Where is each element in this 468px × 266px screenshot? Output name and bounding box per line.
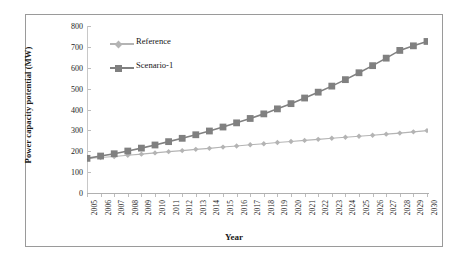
- diamond-marker-icon: [261, 141, 266, 146]
- y-axis-tick-label: 300: [43, 126, 83, 135]
- square-marker-icon: [165, 138, 172, 145]
- diamond-marker-icon: [302, 138, 307, 143]
- x-axis-tick-label: 2021: [308, 200, 317, 215]
- x-axis-tick-label: 2023: [335, 200, 344, 215]
- square-marker-icon: [315, 89, 322, 96]
- square-marker-icon: [192, 131, 199, 138]
- square-marker-icon: [152, 142, 159, 149]
- diamond-marker-icon: [356, 134, 361, 139]
- y-axis-title: Power capacity potential (MW): [23, 15, 33, 195]
- square-marker-icon: [356, 69, 363, 76]
- x-axis-tick-label: 2013: [199, 200, 208, 215]
- x-axis-tick-label: 2017: [253, 200, 262, 215]
- diamond-marker-icon: [384, 131, 389, 136]
- x-axis-tick-mark: [277, 194, 278, 197]
- x-axis-tick-label: 2016: [240, 200, 249, 215]
- square-marker-icon: [206, 128, 213, 135]
- x-axis-tick-mark: [87, 194, 88, 197]
- diamond-marker-icon: [180, 148, 185, 153]
- diamond-marker-icon: [411, 129, 416, 134]
- square-marker-icon: [247, 115, 254, 122]
- x-axis-tick-mark: [291, 194, 292, 197]
- x-axis-tick-mark: [155, 194, 156, 197]
- x-axis-tick-label: 2010: [158, 200, 167, 215]
- diamond-marker-icon: [424, 128, 428, 133]
- x-axis-tick-mark: [359, 194, 360, 197]
- x-axis-tick-mark: [141, 194, 142, 197]
- x-axis-tick-label: 2015: [226, 200, 235, 215]
- series-reference: [87, 128, 428, 161]
- diamond-marker-icon: [234, 143, 239, 148]
- x-axis-tick-mark: [114, 194, 115, 197]
- x-axis-tick-label: 2030: [430, 200, 439, 215]
- square-marker-icon: [424, 38, 428, 45]
- x-axis-tick-label: 2005: [90, 200, 99, 215]
- x-axis-tick-mark: [182, 194, 183, 197]
- x-axis-tick-mark: [400, 194, 401, 197]
- x-axis-tick-label: 2014: [212, 200, 221, 215]
- chart-legend: Reference Scenario-1: [110, 36, 230, 84]
- x-axis-tick-mark: [237, 194, 238, 197]
- x-axis-tick-label: 2011: [172, 200, 181, 215]
- legend-item-scenario1: Scenario-1: [110, 60, 230, 84]
- diamond-marker-icon: [220, 144, 225, 149]
- x-axis-tick-label: 2027: [389, 200, 398, 215]
- square-marker-icon: [301, 95, 308, 102]
- x-axis-tick-mark: [209, 194, 210, 197]
- square-marker-icon: [274, 105, 281, 112]
- x-axis-tick-mark: [305, 194, 306, 197]
- x-axis-tick-mark: [128, 194, 129, 197]
- x-axis-tick-mark: [318, 194, 319, 197]
- legend-swatch-reference: [110, 43, 134, 45]
- diamond-marker-icon: [288, 139, 293, 144]
- diamond-marker-icon: [343, 135, 348, 140]
- square-marker-icon: [369, 62, 376, 69]
- x-axis-tick-label: 2018: [267, 200, 276, 215]
- square-marker-icon: [233, 119, 240, 126]
- square-marker-icon: [288, 100, 295, 107]
- diamond-marker-icon: [139, 151, 144, 156]
- square-marker-icon: [220, 124, 227, 131]
- y-axis-tick-label: 700: [43, 42, 83, 51]
- y-axis-tick-label: 200: [43, 147, 83, 156]
- square-marker-icon: [97, 153, 104, 160]
- x-axis-tick-mark: [332, 194, 333, 197]
- x-axis-tick-label: 2006: [104, 200, 113, 215]
- square-marker-icon: [328, 83, 335, 90]
- diamond-marker-icon: [152, 150, 157, 155]
- square-marker-icon: [179, 135, 186, 142]
- x-axis-tick-label: 2026: [376, 200, 385, 215]
- x-axis-tick-label: 2025: [362, 200, 371, 215]
- diamond-marker-icon: [248, 142, 253, 147]
- x-axis-tick-mark: [196, 194, 197, 197]
- x-axis-tick-mark: [169, 194, 170, 197]
- diamond-marker-icon: [166, 149, 171, 154]
- x-axis-tick-mark: [373, 194, 374, 197]
- x-axis-tick-marks: [87, 194, 429, 198]
- diamond-marker-icon: [193, 147, 198, 152]
- x-axis-tick-mark: [101, 194, 102, 197]
- legend-label-reference: Reference: [136, 36, 171, 46]
- x-axis-tick-mark: [223, 194, 224, 197]
- square-marker-icon: [138, 145, 145, 152]
- x-axis-tick-mark: [413, 194, 414, 197]
- diamond-marker-icon: [329, 136, 334, 141]
- square-marker-icon: [342, 76, 349, 83]
- x-axis-tick-mark: [427, 194, 428, 197]
- x-axis-title: Year: [25, 232, 443, 242]
- legend-swatch-scenario1: [110, 67, 134, 69]
- y-axis-tick-label: 0: [43, 189, 83, 198]
- x-axis-tick-label: 2009: [144, 200, 153, 215]
- y-axis-tick-label: 400: [43, 105, 83, 114]
- x-axis-tick-mark: [250, 194, 251, 197]
- x-axis-tick-label: 2028: [403, 200, 412, 215]
- diamond-marker-icon: [275, 140, 280, 145]
- x-axis-tick-label: 2019: [280, 200, 289, 215]
- x-axis-tick-mark: [386, 194, 387, 197]
- diamond-marker-icon: [370, 132, 375, 137]
- diamond-marker-icon: [114, 40, 123, 49]
- square-marker-icon: [124, 148, 131, 155]
- square-marker-icon: [410, 42, 417, 49]
- x-axis-tick-labels: 2005200620072008200920102011201220132014…: [87, 200, 429, 232]
- square-marker-icon: [260, 110, 267, 117]
